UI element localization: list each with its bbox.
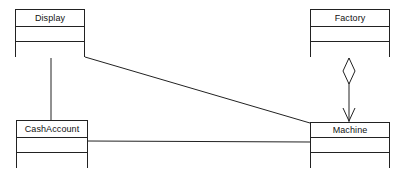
connector-display-machine[interactable] <box>85 57 310 123</box>
connector-line-cashaccount-machine <box>88 141 310 142</box>
uml-class-name-factory: Factory <box>335 14 366 23</box>
uml-name-compartment-display: Display <box>16 10 84 27</box>
uml-operation-compartment-cashaccount <box>17 153 87 169</box>
uml-class-display[interactable]: Display <box>15 9 85 57</box>
uml-name-compartment-factory: Factory <box>311 10 389 27</box>
uml-name-compartment-cashaccount: CashAccount <box>17 121 87 138</box>
connector-factory-machine[interactable] <box>343 57 355 122</box>
uml-operation-compartment-display <box>16 42 84 58</box>
uml-attribute-compartment-cashaccount <box>17 138 87 153</box>
uml-class-factory[interactable]: Factory <box>310 9 390 57</box>
uml-class-name-cashaccount: CashAccount <box>25 125 80 134</box>
uml-operation-compartment-machine <box>311 153 389 169</box>
uml-attribute-compartment-factory <box>311 27 389 42</box>
uml-operation-compartment-factory <box>311 42 389 58</box>
uml-class-name-machine: Machine <box>333 126 368 135</box>
uml-class-name-display: Display <box>35 14 65 23</box>
open-arrowhead-factory-machine <box>343 108 355 121</box>
uml-class-machine[interactable]: Machine <box>310 122 390 168</box>
connector-cashaccount-machine[interactable] <box>88 141 310 142</box>
uml-class-cashaccount[interactable]: CashAccount <box>16 120 88 168</box>
aggregation-diamond-factory-machine <box>343 58 355 84</box>
uml-attribute-compartment-display <box>16 27 84 42</box>
uml-class-diagram-canvas: DisplayFactoryCashAccountMachine <box>0 0 404 175</box>
uml-name-compartment-machine: Machine <box>311 123 389 138</box>
connector-line-display-machine <box>85 57 310 123</box>
uml-attribute-compartment-machine <box>311 138 389 153</box>
